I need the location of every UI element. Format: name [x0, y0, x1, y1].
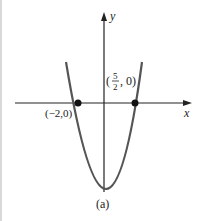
point-label-left: (−2,0)	[45, 107, 73, 120]
x-axis-label: x	[183, 106, 190, 120]
svg-text:, 0): , 0)	[120, 74, 136, 88]
point-label-right: ( 5 2 , 0)	[106, 71, 136, 92]
svg-text:(: (	[106, 74, 110, 88]
root-point-left	[75, 100, 82, 107]
parabola-graph: y x (−2,0) ( 5 2 , 0) (a)	[0, 0, 204, 221]
root-point-right	[132, 100, 139, 107]
fraction-numerator: 5	[113, 71, 118, 81]
y-axis-arrow-icon	[101, 12, 107, 21]
figure-caption: (a)	[96, 197, 109, 211]
y-axis-label: y	[109, 9, 116, 23]
fraction-denominator: 2	[113, 82, 118, 92]
